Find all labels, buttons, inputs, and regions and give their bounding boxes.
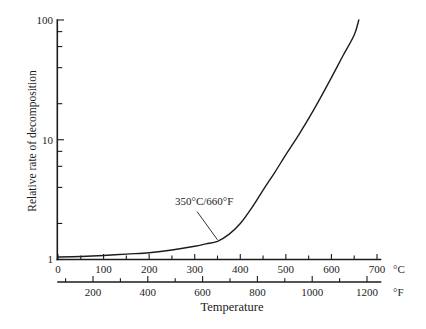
ticks-group (57, 20, 377, 282)
celsius-tick-label: 300 (186, 263, 203, 275)
fahrenheit-tick-label: 200 (85, 286, 102, 298)
fahrenheit-tick-label: 1200 (356, 286, 379, 298)
celsius-unit-label: °C (393, 263, 405, 275)
chart-svg: 1101000100200300400500600700200400600800… (0, 0, 426, 329)
fahrenheit-tick-label: 800 (249, 286, 266, 298)
annotation-leader-line (197, 212, 218, 240)
y-axis-title: Relative rate of decomposition (26, 70, 39, 212)
fahrenheit-tick-label: 1000 (301, 286, 324, 298)
celsius-tick-label: 400 (232, 263, 249, 275)
celsius-tick-label: 200 (141, 263, 158, 275)
celsius-tick-label: 600 (323, 263, 340, 275)
fahrenheit-unit-label: °F (393, 286, 404, 298)
y-axis-tick-label: 100 (37, 14, 54, 26)
fahrenheit-tick-label: 600 (194, 286, 211, 298)
decomposition-rate-figure: 1101000100200300400500600700200400600800… (0, 0, 426, 329)
axes-group (57, 20, 380, 282)
decomposition-curve (58, 20, 359, 257)
curve-group (58, 20, 359, 257)
celsius-tick-label: 0 (55, 263, 61, 275)
fahrenheit-tick-label: 400 (140, 286, 157, 298)
y-axis-tick-label: 10 (42, 134, 54, 146)
tick-labels-group: 1101000100200300400500600700200400600800… (37, 14, 386, 298)
annotation-group (197, 212, 218, 240)
annotation-label: 350°C/660°F (175, 195, 233, 207)
celsius-tick-label: 100 (95, 263, 112, 275)
celsius-tick-label: 700 (369, 263, 386, 275)
x-axis-title: Temperature (201, 300, 264, 314)
y-axis-tick-label: 1 (48, 253, 54, 265)
celsius-tick-label: 500 (278, 263, 295, 275)
